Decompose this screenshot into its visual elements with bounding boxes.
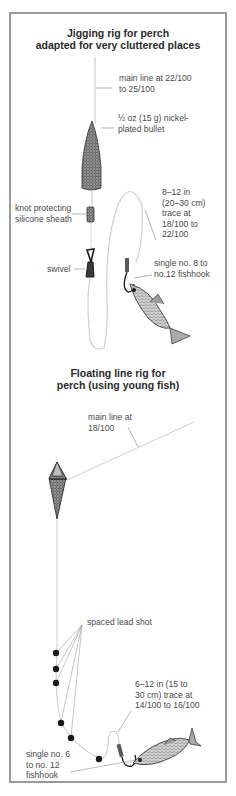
rig2-title-line2: perch (using young fish) — [0, 379, 236, 391]
rig1-sheath-label: knot protecting silicone sheath — [15, 203, 72, 224]
rig1-swivel-label: swivel — [47, 264, 70, 275]
float-icon — [49, 462, 67, 519]
rig1-trace-label: 8–12 in (20–30 cm) trace at 18/100 to 22… — [162, 187, 205, 240]
rig1-main-line-label: main line at 22/100 to 25/100 — [119, 73, 192, 94]
rig1-hook-label: single no. 8 to no.12 fishhook — [154, 258, 210, 279]
rig1-bullet-label: ½ oz (15 g) nickel- plated bullet — [118, 113, 189, 134]
rig1-main-line — [95, 57, 112, 124]
bait-fish-icon — [130, 284, 190, 344]
bait-fish-icon — [133, 728, 201, 765]
bullet-weight-icon — [82, 121, 114, 190]
rig2-hook-label: single no. 6 to no. 12 fishhook — [26, 749, 70, 781]
rig2-lead-shot-label: spaced lead shot — [87, 617, 152, 628]
silicone-sheath-icon — [72, 207, 94, 222]
rig2-trace-label: 6–12 in (15 to 30 cm) trace at 14/100 to… — [135, 679, 200, 711]
swivel-icon — [74, 249, 94, 277]
lead-shot-icon — [53, 650, 102, 762]
rig2-main-line-label: main line at 18/100 — [88, 412, 132, 433]
rig2-title-line1: Floating line rig for — [0, 367, 236, 379]
